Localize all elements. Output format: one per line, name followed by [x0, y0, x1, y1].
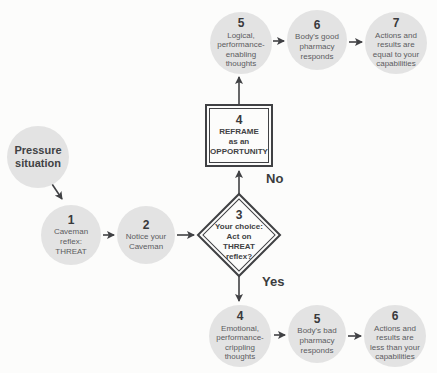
node-good-pharmacy-label: Body's good pharmacy responds: [295, 32, 339, 61]
node-caveman-label: Caveman reflex: THREAT: [54, 227, 88, 256]
node-emotional-number: 4: [237, 310, 244, 323]
node-good-pharmacy: 6 Body's good pharmacy responds: [287, 10, 347, 70]
node-equal-results: 7 Actions and results are equal to your …: [365, 12, 427, 74]
node-pressure-situation: Pressure situation: [7, 126, 69, 188]
node-choice: 3 Your choice: Act on THREAT reflex?: [202, 210, 276, 260]
node-reframe-label: REFRAME as an OPPORTUNITY: [210, 127, 268, 157]
node-notice-caveman: 2 Notice your Caveman: [117, 206, 175, 264]
node-lesser-results: 6 Actions and results are less than your…: [364, 305, 426, 367]
node-lesser-results-number: 6: [392, 310, 399, 323]
edge-label-no: No: [266, 171, 283, 186]
node-choice-label: Your choice: Act on THREAT reflex?: [215, 222, 263, 261]
node-emotional-label: Emotional, performance- crippling though…: [216, 324, 264, 362]
node-bad-pharmacy: 5 Body's bad pharmacy responds: [288, 305, 346, 363]
node-lesser-results-label: Actions and results are less than your c…: [370, 324, 420, 362]
node-bad-pharmacy-number: 5: [314, 313, 321, 326]
node-logical-thoughts: 5 Logical, performance- enabling thought…: [210, 12, 272, 74]
node-logical-number: 5: [238, 17, 245, 30]
node-bad-pharmacy-label: Body's bad pharmacy responds: [297, 326, 336, 355]
node-caveman-number: 1: [68, 214, 75, 227]
node-caveman-reflex: 1 Caveman reflex: THREAT: [41, 205, 101, 265]
node-notice-label: Notice your Caveman: [126, 232, 166, 251]
node-reframe-number: 4: [236, 114, 243, 127]
node-pressure-label: Pressure situation: [14, 144, 61, 170]
node-equal-results-number: 7: [393, 17, 400, 30]
flowchart-canvas: Pressure situation 1 Caveman reflex: THR…: [0, 0, 437, 373]
node-logical-label: Logical, performance- enabling thoughts: [217, 31, 265, 69]
node-reframe-opportunity: 4 REFRAME as an OPPORTUNITY: [209, 108, 269, 163]
node-emotional-thoughts: 4 Emotional, performance- crippling thou…: [209, 305, 271, 367]
node-choice-number: 3: [236, 209, 243, 222]
arrow-pressure-to-caveman: [52, 184, 62, 199]
node-good-pharmacy-number: 6: [314, 19, 321, 32]
edge-label-yes: Yes: [262, 274, 284, 289]
node-equal-results-label: Actions and results are equal to your ca…: [373, 31, 419, 69]
node-notice-number: 2: [143, 219, 150, 232]
